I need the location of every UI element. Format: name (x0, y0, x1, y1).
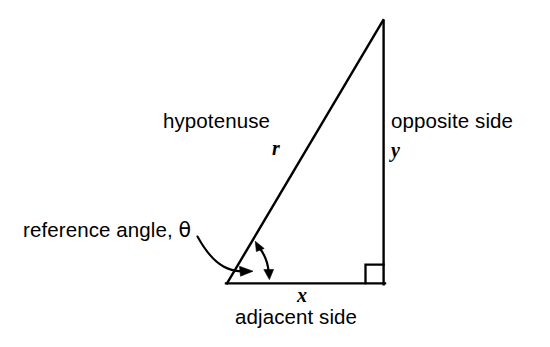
label-opposite-variable: y (391, 140, 400, 160)
triangle-side-hypotenuse (227, 20, 383, 283)
label-adjacent-variable: x (297, 285, 307, 305)
angle-arc-arrowhead-upper (255, 241, 264, 251)
reference-angle-leader-curve (198, 237, 242, 272)
label-opposite-side: opposite side (391, 111, 513, 132)
label-reference-angle-text: reference angle, (23, 218, 179, 241)
triangle-diagram: hypotenuse r opposite side y reference a… (0, 0, 550, 347)
reference-angle-leader-arrowhead (240, 266, 254, 276)
label-hypotenuse-variable: r (272, 138, 280, 158)
angle-arc (255, 241, 273, 279)
label-adjacent-side: adjacent side (235, 307, 357, 328)
label-hypotenuse: hypotenuse (163, 111, 270, 132)
theta-symbol: θ (179, 218, 192, 242)
angle-arc-arrowhead-lower (264, 269, 274, 279)
triangle-graphic (0, 0, 550, 347)
reference-angle-leader (198, 237, 254, 277)
label-reference-angle: reference angle, θ (23, 220, 191, 241)
triangle-outline (226, 20, 385, 284)
right-angle-marker (366, 265, 384, 283)
